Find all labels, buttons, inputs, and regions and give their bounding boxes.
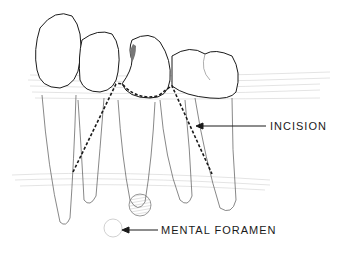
dental-diagram: INCISION MENTAL FORAMEN xyxy=(0,0,340,253)
mental-foramen-arrow xyxy=(122,227,158,233)
bone-hatching xyxy=(12,173,270,190)
root-apex-shaded xyxy=(129,194,151,216)
incision-label: INCISION xyxy=(270,120,327,132)
crown-canine xyxy=(36,14,81,88)
incision-arrow xyxy=(196,123,266,129)
mental-foramen-circle xyxy=(104,219,122,237)
tooth-crowns xyxy=(36,14,239,99)
crown-premolar-2 xyxy=(122,35,170,98)
crown-molar xyxy=(172,49,238,98)
crown-premolar-1 xyxy=(79,32,119,92)
mental-foramen-label: MENTAL FORAMEN xyxy=(161,224,276,236)
